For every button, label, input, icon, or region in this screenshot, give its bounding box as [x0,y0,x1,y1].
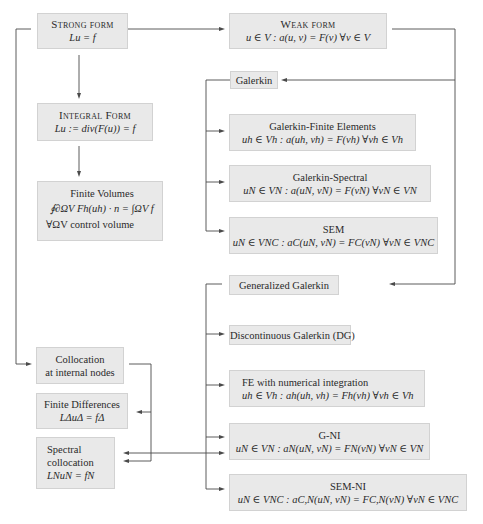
g-ni-title: G-NI [230,429,429,442]
strong-form-title: Strong form [38,18,127,31]
galerkin-box: Galerkin [230,71,278,89]
sem-equation: uN ∈ VNC : aC(uN, vN) = FC(vN) ∀vN ∈ VNC [230,236,437,249]
fe-ni-equation: uh ∈ Vh : ah(uh, vh) = Fh(vh) ∀vh ∈ Vh [242,389,424,402]
spectral-collocation-equation: LNuN = fN [47,469,114,482]
galerkin-fe-box: Galerkin-Finite Elements uh ∈ Vh : a(uh,… [229,114,416,151]
galerkin-fe-equation: uh ∈ Vh : a(uh, vh) = F(vh) ∀vh ∈ Vh [230,133,415,146]
integral-form-title: Integral Form [38,109,152,122]
galerkin-spectral-equation: uN ∈ VN : a(uN, vN) = F(vN) ∀vN ∈ VN [230,184,430,197]
sem-ni-equation: uN ∈ VNC : aC,N(uN, vN) = FC,N(vN) ∀vN ∈… [230,493,466,506]
collocation-line2: at internal nodes [37,366,123,379]
generalized-galerkin-label: Generalized Galerkin [230,279,338,292]
finite-differences-equation: LΔuΔ = fΔ [37,411,127,424]
finite-volumes-box: Finite Volumes ∮∂ΩV Fh(uh) · n = ∫ΩV f ∀… [37,181,163,241]
dg-box: Discontinuous Galerkin (DG) [229,325,351,345]
weak-form-equation: u ∈ V : a(u, v) = F(v) ∀v ∈ V [230,31,386,44]
dg-label: Discontinuous Galerkin (DG) [230,329,350,342]
strong-form-equation: Lu = f [38,31,127,44]
finite-differences-box: Finite Differences LΔuΔ = fΔ [36,393,128,429]
finite-volumes-note: ∀ΩV control volume [46,218,158,231]
sem-ni-box: SEM-NI uN ∈ VNC : aC,N(uN, vN) = FC,N(vN… [229,474,467,511]
galerkin-spectral-title: Galerkin-Spectral [230,171,430,184]
weak-form-box: Weak form u ∈ V : a(u, v) = F(v) ∀v ∈ V [229,13,387,49]
fe-ni-title: FE with numerical integration [242,376,424,389]
generalized-galerkin-box: Generalized Galerkin [229,275,339,295]
sem-box: SEM uN ∈ VNC : aC(uN, vN) = FC(vN) ∀vN ∈… [229,217,438,254]
collocation-box: Collocation at internal nodes [36,347,124,384]
collocation-line1: Collocation [37,353,123,366]
integral-form-equation: Lu := div(F(u)) = f [38,122,152,135]
galerkin-label: Galerkin [231,74,277,87]
galerkin-fe-title: Galerkin-Finite Elements [230,120,415,133]
spectral-collocation-line2: collocation [47,456,114,469]
spectral-collocation-line1: Spectral [47,443,114,456]
galerkin-spectral-box: Galerkin-Spectral uN ∈ VN : a(uN, vN) = … [229,165,431,202]
g-ni-box: G-NI uN ∈ VN : aN(uN, vN) = FN(vN) ∀vN ∈… [229,423,430,460]
finite-volumes-equation: ∮∂ΩV Fh(uh) · n = ∫ΩV f [46,202,158,215]
weak-form-title: Weak form [230,18,386,31]
finite-volumes-title: Finite Volumes [46,187,158,200]
g-ni-equation: uN ∈ VN : aN(uN, vN) = FN(vN) ∀vN ∈ VN [230,442,429,455]
finite-differences-title: Finite Differences [37,398,127,411]
fe-ni-box: FE with numerical integration uh ∈ Vh : … [229,370,425,407]
spectral-collocation-box: Spectral collocation LNuN = fN [36,437,115,489]
sem-ni-title: SEM-NI [230,480,466,493]
strong-form-box: Strong form Lu = f [37,13,128,49]
integral-form-box: Integral Form Lu := div(F(u)) = f [37,103,153,141]
sem-title: SEM [230,223,437,236]
